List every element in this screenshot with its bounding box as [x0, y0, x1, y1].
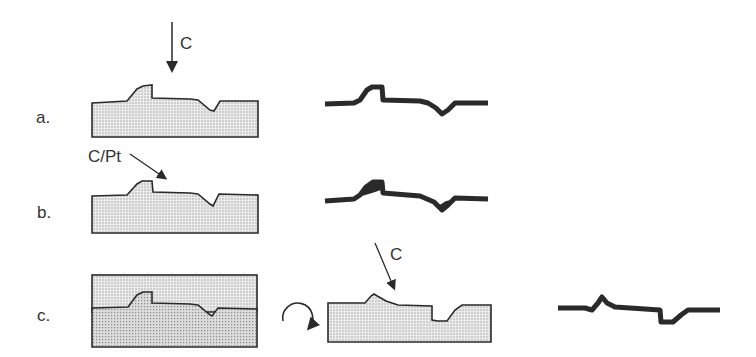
- row-label-c: c.: [37, 306, 50, 326]
- row-c: [92, 243, 720, 347]
- arrow-label-a: C: [180, 34, 192, 54]
- inverted-block-c: [328, 294, 491, 342]
- arrow-label-b: C/Pt: [88, 147, 121, 167]
- row-a: [92, 22, 488, 137]
- replica-c: [558, 297, 720, 322]
- row-label-b: b.: [37, 203, 51, 223]
- arrow-label-c: C: [390, 245, 402, 265]
- row-b: [92, 154, 488, 233]
- rotate-arrow-icon: [283, 303, 313, 328]
- replica-b: [325, 182, 488, 210]
- replica-a: [325, 87, 488, 114]
- specimen-block-a: [92, 85, 258, 137]
- carbon-platinum-arrow-b: [130, 154, 165, 178]
- replica-diagram: [0, 0, 756, 357]
- row-label-a: a.: [36, 108, 50, 128]
- specimen-block-b: [92, 181, 258, 233]
